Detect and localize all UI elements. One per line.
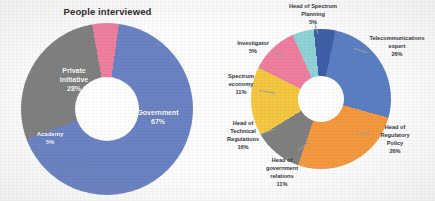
callout-label-investigator: Investigator 5%	[225, 39, 281, 55]
callout-label-head-of-spectrum-planning: Head of Spectrum Planning 5%	[278, 2, 348, 26]
left-chart-panel: People interviewed Government 67% Privat…	[0, 0, 215, 201]
right-donut-hole	[298, 76, 344, 122]
callout-label-head-of-technical-regulations: Head of Technical Regulations 16%	[215, 119, 271, 151]
callout-label-spectrum-economy: Spectrum economy 11%	[215, 72, 267, 96]
callout-label-head-of-government-relations: Head of government relations 11%	[251, 156, 313, 188]
slice-label-academy: Academy 5%	[25, 131, 75, 146]
slice-label-private-initiative: Private initiative 28%	[45, 67, 103, 93]
callout-label-head-of-regulatory-policy: Head of Regulatory Policy 26%	[365, 123, 425, 155]
right-chart-panel: Telecommunications expert 26% Head of Re…	[215, 0, 435, 201]
page-title: People interviewed	[0, 6, 215, 17]
figure-canvas: People interviewed Government 67% Privat…	[0, 0, 435, 201]
slice-label-government: Government 67%	[125, 109, 191, 127]
callout-label-telecommunications-expert: Telecommunications expert 26%	[360, 34, 434, 58]
left-donut-chart: Government 67% Private initiative 28% Ac…	[21, 23, 193, 195]
